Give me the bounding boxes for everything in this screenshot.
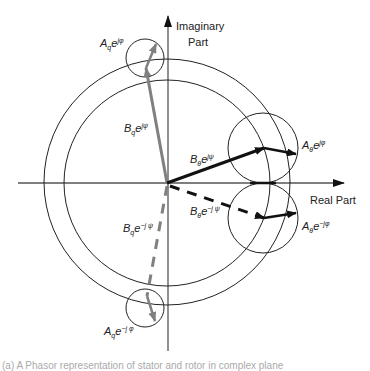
imaginary-label-2: Part <box>188 36 208 48</box>
vector-Ath-neg <box>264 213 296 218</box>
real-label: Real Part <box>310 194 356 206</box>
label-Aq-pos: Aqejφ <box>99 37 124 52</box>
circle-top <box>126 39 164 77</box>
label-Bth-pos: Bθejψ <box>190 153 214 167</box>
label-Bth-neg: Bθe−j ψ <box>190 205 220 219</box>
vector-Bth-pos <box>167 148 264 183</box>
imaginary-label-1: Imaginary <box>176 20 225 32</box>
vector-Bth-neg <box>170 186 264 218</box>
vector-Aq-pos <box>146 44 156 68</box>
figure-caption: (a) A Phasor representation of stator an… <box>2 360 283 371</box>
label-Ath-neg: Aθe−jφ <box>301 220 330 234</box>
vector-Ath-pos <box>264 148 296 154</box>
circle-bottom <box>126 289 164 327</box>
label-Bq-pos: Bqejψ <box>124 122 148 137</box>
vector-Bq-pos <box>146 68 167 183</box>
vector-Bq-neg <box>147 186 167 296</box>
label-Bq-neg: Bqe−j ψ <box>123 222 153 237</box>
label-Aq-neg: Aqe−j φ <box>103 325 134 340</box>
label-Ath-pos: Aθejφ <box>301 139 326 153</box>
vector-Aq-neg <box>147 296 155 321</box>
